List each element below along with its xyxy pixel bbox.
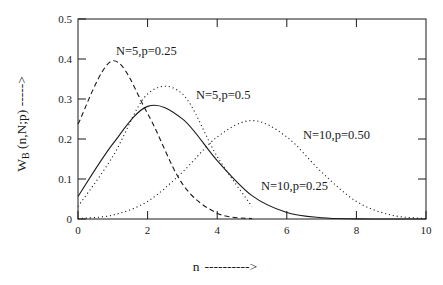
curve-annotations: N=5,p=0.25 N=5,p=0.5 N=10,p=0.50 N=10,p=… [116,44,370,193]
x-tick-label-4: 4 [214,224,220,236]
y-axis-title-main: W [14,159,29,172]
svg-text:WB (n,N;p) ----->: WB (n,N;p) -----> [14,76,31,172]
binomial-distribution-figure: 0 0.1 0.2 0.3 0.4 0.5 0 2 4 6 8 10 N=5,p… [0,0,443,285]
y-axis-title-rest: (n,N;p) -----> [14,76,29,152]
x-tick-label-2: 2 [145,224,151,236]
curve-n5-p025 [78,61,252,219]
x-tick-label-0: 0 [75,224,81,236]
svg-text:n---------->: n----------> [193,259,257,274]
y-tick-label-0.3: 0.3 [58,93,72,105]
curve-n5-p05 [78,86,252,206]
annotation-n10-p050: N=10,p=0.50 [303,128,370,142]
x-axis-title-symbol: n [193,259,200,274]
x-tick-label-8: 8 [354,224,360,236]
annotation-n5-p025: N=5,p=0.25 [116,44,177,58]
y-tick-label-0.2: 0.2 [58,133,72,145]
annotation-n10-p025: N=10,p=0.25 [261,179,328,193]
annotation-n5-p05: N=5,p=0.5 [196,88,250,102]
chart-canvas: 0 0.1 0.2 0.3 0.4 0.5 0 2 4 6 8 10 N=5,p… [0,0,443,285]
curve-n10-p025 [78,105,426,219]
x-tick-labels: 0 2 4 6 8 10 [75,224,432,236]
y-tick-label-0.5: 0.5 [58,13,72,25]
data-curves [78,61,426,219]
y-tick-label-0: 0 [67,213,73,225]
y-tick-labels: 0 0.1 0.2 0.3 0.4 0.5 [58,13,72,225]
x-axis-title: n----------> [193,259,257,274]
x-tick-label-6: 6 [284,224,290,236]
y-axis-title: WB (n,N;p) -----> [14,76,31,172]
y-tick-label-0.1: 0.1 [58,173,72,185]
curve-n10-p050 [78,121,426,219]
x-axis-title-arrow: ----------> [205,259,258,274]
x-tick-label-10: 10 [421,224,433,236]
y-tick-label-0.4: 0.4 [58,53,72,65]
